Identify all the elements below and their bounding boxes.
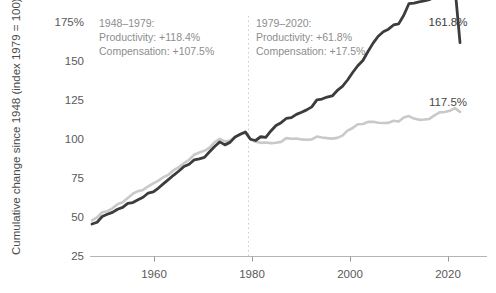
y-tick-label-125: 125 (65, 94, 84, 106)
annotation-2-line-2: Productivity: +61.8% (256, 31, 352, 43)
y-tick-label-175: 175% (55, 16, 84, 28)
y-tick-label-75: 75 (71, 172, 84, 184)
annotation-period-1948-1979: 1948–1979: Productivity: +118.4% Compens… (99, 17, 214, 57)
y-axis-title: Cumulative change since 1948 (index 1979… (10, 0, 22, 255)
x-tick-label-2000: 2000 (337, 268, 363, 280)
y-tick-label-50: 50 (71, 211, 84, 223)
y-tick-label-100: 100 (65, 133, 84, 145)
annotation-2-line-1: 1979–2020: (256, 17, 311, 29)
y-axis-title-group: Cumulative change since 1948 (index 1979… (10, 0, 22, 255)
y-tick-label-25: 25 (71, 250, 84, 262)
annotation-1-line-1: 1948–1979: (99, 17, 154, 29)
x-tick-label-1980: 1980 (239, 268, 265, 280)
chart-canvas: Cumulative change since 1948 (index 1979… (0, 0, 496, 293)
x-axis-tick-labels: 1960 1980 2000 2020 (141, 268, 461, 280)
y-tick-label-150: 150 (65, 55, 84, 67)
y-axis-tick-labels: 175% 150 125 100 75 50 25 (55, 16, 84, 262)
annotation-2-line-3: Compensation: +17.5% (256, 45, 365, 57)
end-label-compensation: 117.5% (429, 96, 467, 108)
x-tick-label-1960: 1960 (141, 268, 167, 280)
end-label-productivity: 161.8% (428, 16, 467, 28)
x-tick-label-2020: 2020 (435, 268, 461, 280)
annotation-period-1979-2020: 1979–2020: Productivity: +61.8% Compensa… (256, 17, 365, 57)
x-axis-line-group (90, 257, 487, 262)
annotation-1-line-2: Productivity: +118.4% (99, 31, 200, 43)
annotation-1-line-3: Compensation: +107.5% (99, 45, 214, 57)
productivity-pay-gap-chart: Cumulative change since 1948 (index 1979… (0, 0, 496, 293)
